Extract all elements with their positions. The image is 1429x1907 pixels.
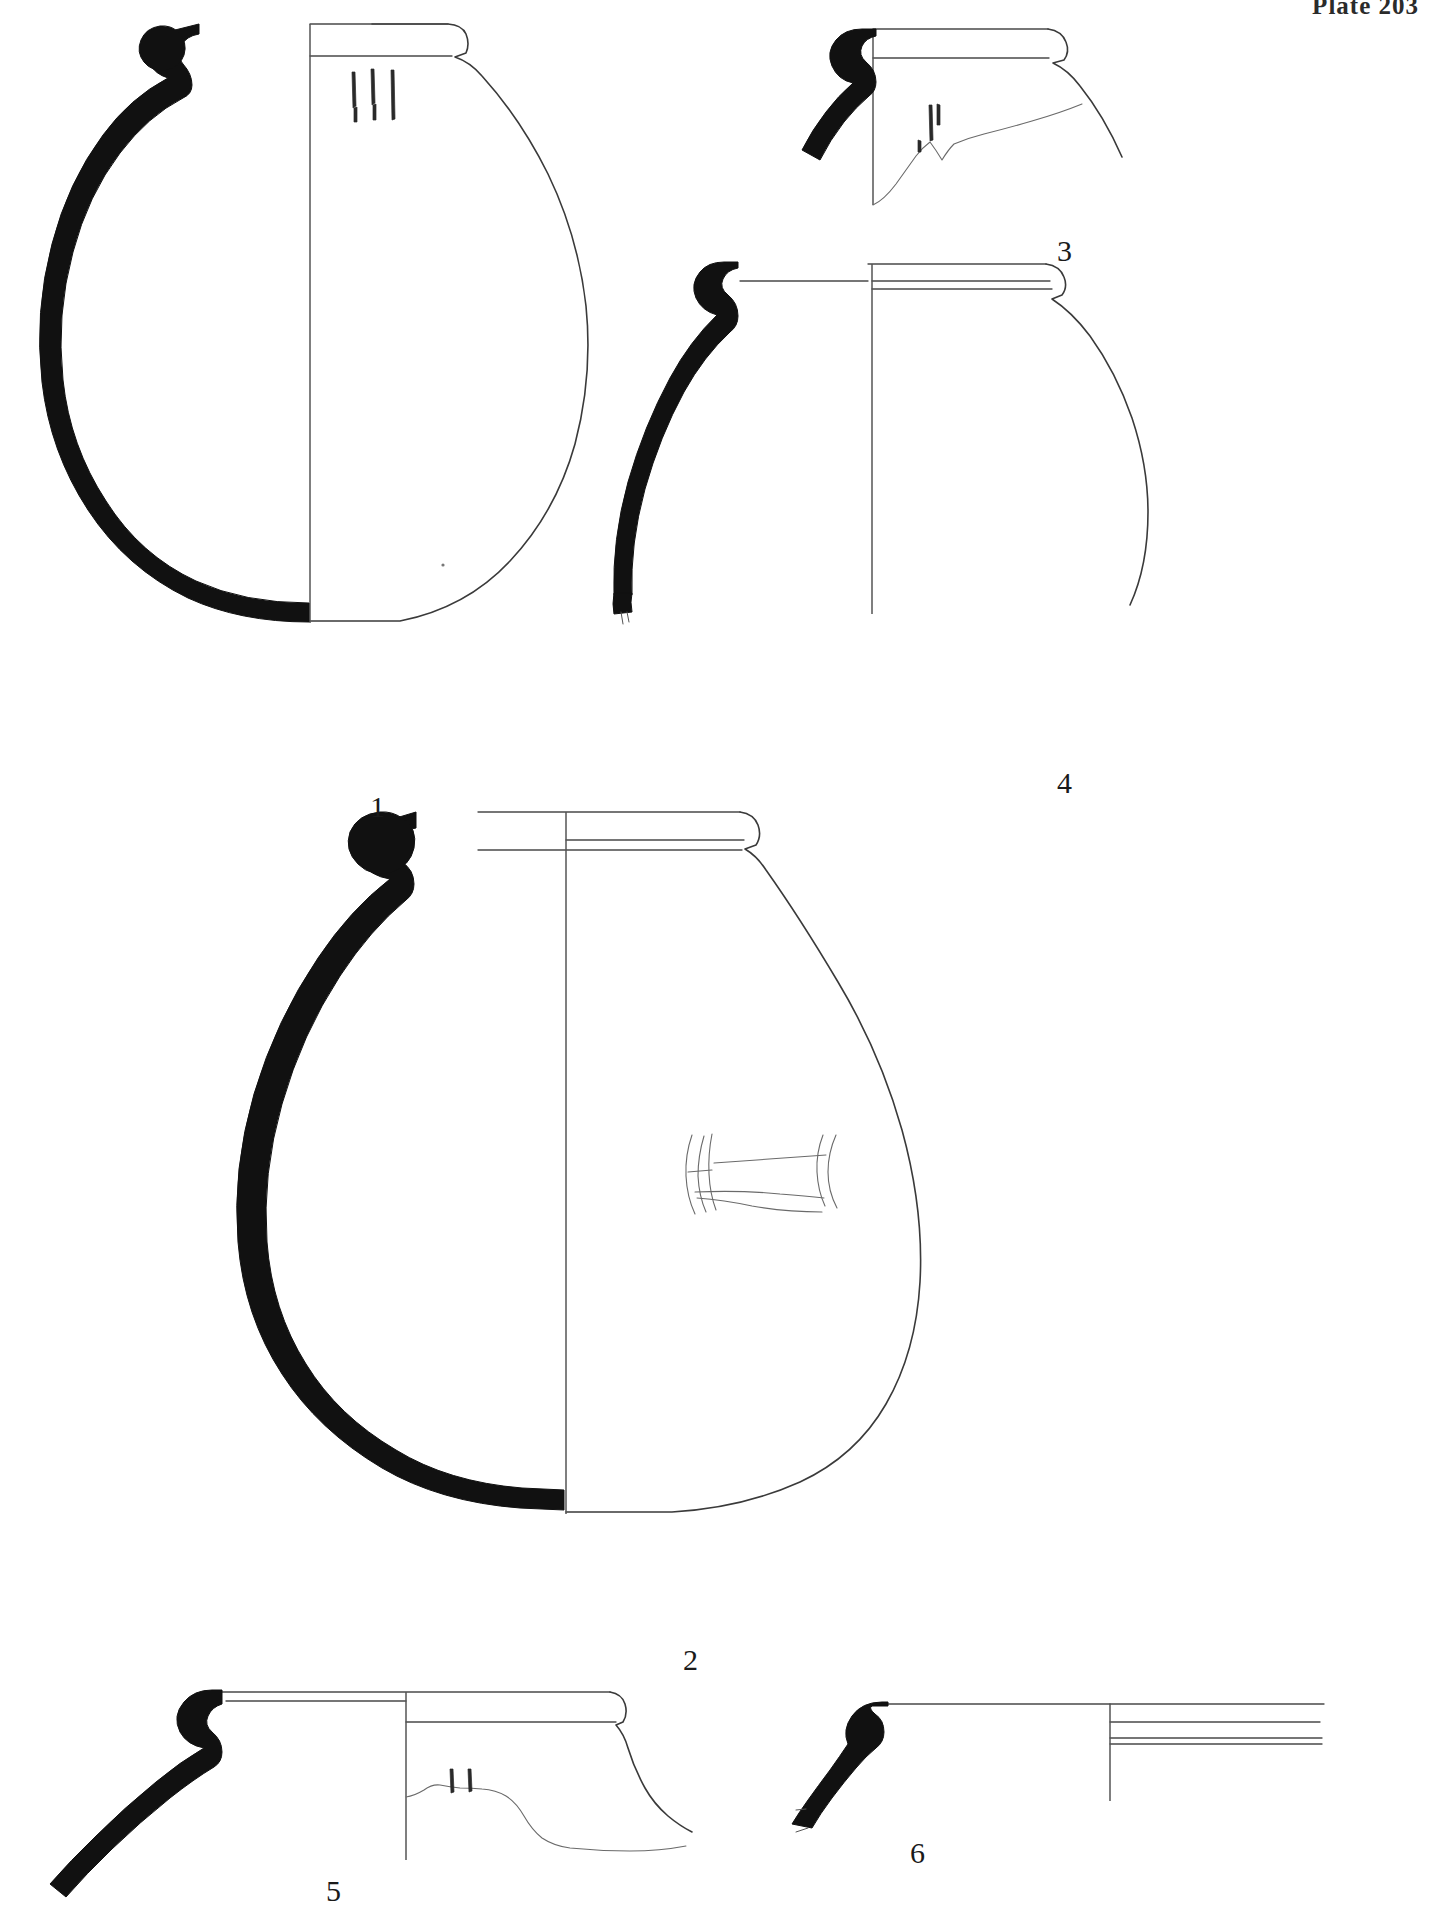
fig4-section-tail xyxy=(613,593,632,614)
figure-label-5: 5 xyxy=(326,1876,341,1906)
fig2-panel-right-edge xyxy=(828,1135,837,1208)
fig1-incision-1b xyxy=(354,107,357,122)
fig1-section-fill xyxy=(40,24,309,622)
fig3-section-fill xyxy=(802,29,876,160)
fig3-incision-3 xyxy=(918,140,921,152)
plate-drawing xyxy=(0,0,1429,1907)
fig4-section-fill xyxy=(614,262,738,595)
fig3-body-outline xyxy=(1048,29,1122,157)
fig5-incision-2 xyxy=(468,1769,472,1792)
fig1-incision-3 xyxy=(391,70,395,120)
figure-label-1: 1 xyxy=(370,792,385,822)
fig1-incision-1 xyxy=(352,72,356,108)
fig2-panel-left-edge-3 xyxy=(709,1134,716,1210)
fig3-incision-2 xyxy=(937,104,940,125)
fig1-incision-2 xyxy=(371,69,375,105)
fig4-foot-ticks xyxy=(621,612,629,624)
figure-1-drawing xyxy=(40,24,588,623)
figure-2-drawing xyxy=(237,812,921,1514)
fig5-incision-1 xyxy=(450,1769,454,1793)
pottery-plate: Plate 203 xyxy=(0,0,1429,1907)
fig1-rim-knob xyxy=(139,26,185,70)
figure-5-drawing xyxy=(50,1690,692,1897)
figure-label-3: 3 xyxy=(1057,236,1072,266)
figure-4-drawing xyxy=(613,262,1148,624)
fig5-broken-edge xyxy=(406,1785,686,1851)
fig2-section-fill xyxy=(237,812,564,1510)
fig3-broken-edge xyxy=(873,104,1082,205)
fig3-incised-decoration xyxy=(918,104,940,152)
fig1-incised-decoration xyxy=(352,69,395,122)
fig2-panel-top-line xyxy=(714,1155,826,1163)
fig2-panel-mid-line xyxy=(695,1191,824,1198)
figure-6-drawing xyxy=(792,1702,1324,1832)
fig1-speck xyxy=(441,563,444,566)
fig1-body-outline xyxy=(310,24,588,621)
fig1-incision-2b xyxy=(373,104,376,120)
fig3-incision-1 xyxy=(929,105,933,141)
fig2-impressed-panel xyxy=(686,1134,837,1214)
fig2-body-outline xyxy=(566,812,921,1512)
fig2-panel-right-edge-2 xyxy=(817,1135,825,1206)
figure-label-6: 6 xyxy=(910,1838,925,1868)
fig5-section-fill xyxy=(50,1690,222,1897)
fig2-panel-left-edge-2 xyxy=(698,1136,706,1212)
fig2-panel-left-edge xyxy=(686,1135,695,1214)
figure-label-2: 2 xyxy=(683,1645,698,1675)
figure-label-4: 4 xyxy=(1057,768,1072,798)
fig5-body-outline xyxy=(610,1692,692,1832)
fig5-incised-decoration xyxy=(450,1769,472,1793)
figure-3-drawing xyxy=(802,29,1122,205)
fig4-body-outline xyxy=(1046,264,1148,605)
